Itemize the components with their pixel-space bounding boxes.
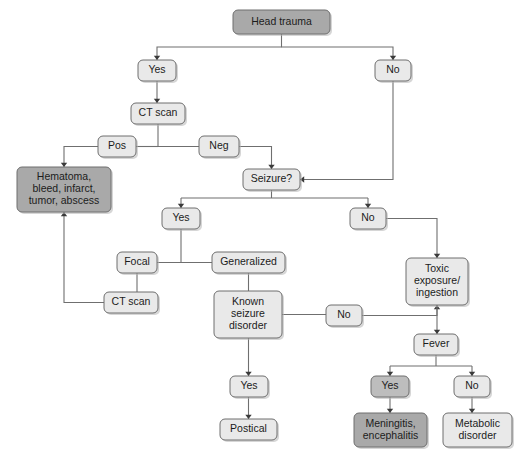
- node-label: Metabolic: [455, 417, 500, 429]
- flowchart-canvas: Head traumaYesNoCT scanPosNegHematoma,bl…: [0, 0, 530, 472]
- node-label: Seizure?: [251, 172, 293, 184]
- node-label: Pos: [108, 139, 126, 151]
- node-label: Generalized: [220, 255, 277, 267]
- node-label: exposure/: [414, 274, 460, 286]
- node-label: No: [361, 211, 375, 223]
- node-label: No: [465, 379, 479, 391]
- flow-node-toxic: Toxicexposure/ingestion: [406, 258, 470, 307]
- flow-node-yes_1: Yes: [138, 60, 178, 83]
- node-label: Yes: [381, 379, 398, 391]
- flow-node-known_seizure: Knownseizuredisorder: [214, 291, 284, 340]
- node-label: encephalitis: [363, 429, 418, 441]
- node-label: seizure: [231, 307, 265, 319]
- edge-layer: [61, 34, 475, 419]
- flow-node-fever: Fever: [414, 334, 460, 357]
- node-label: No: [337, 308, 351, 320]
- node-label: Yes: [240, 379, 257, 391]
- flow-node-no_1: No: [375, 60, 413, 83]
- node-label: Neg: [209, 139, 228, 151]
- flow-node-no_2: No: [350, 208, 388, 231]
- node-label: Hematoma,: [37, 170, 91, 182]
- node-label: Head trauma: [251, 15, 312, 27]
- node-label: CT scan: [139, 106, 178, 118]
- node-layer: Head traumaYesNoCT scanPosNegHematoma,bl…: [17, 10, 514, 449]
- node-label: bleed, infarct,: [32, 182, 95, 194]
- node-label: disorder: [459, 429, 497, 441]
- flow-node-yes_4: Yes: [230, 376, 270, 399]
- node-label: Meningitis,: [365, 417, 415, 429]
- node-label: Fever: [423, 337, 450, 349]
- flow-node-ct_scan_1: CT scan: [131, 103, 187, 126]
- node-label: Yes: [148, 63, 165, 75]
- node-label: ingestion: [416, 286, 458, 298]
- node-label: Toxic: [425, 262, 449, 274]
- flow-node-pos: Pos: [98, 136, 138, 159]
- flow-node-head_trauma: Head trauma: [233, 10, 332, 36]
- flow-node-yes_3: Yes: [371, 376, 411, 399]
- flow-node-generalized: Generalized: [212, 252, 287, 275]
- node-label: tumor, abscess: [29, 194, 100, 206]
- flow-node-no_3: No: [326, 305, 364, 328]
- node-label: disorder: [229, 319, 267, 331]
- node-label: Focal: [124, 255, 150, 267]
- flow-node-hematoma: Hematoma,bleed, infarct,tumor, abscess: [17, 167, 113, 214]
- flow-node-seizure_q: Seizure?: [243, 169, 302, 192]
- node-label: Known: [232, 295, 264, 307]
- node-label: No: [386, 63, 400, 75]
- node-label: Yes: [172, 211, 189, 223]
- flow-node-meningitis: Meningitis,encephalitis: [354, 413, 429, 449]
- flow-node-metabolic: Metabolicdisorder: [443, 413, 514, 449]
- flow-node-neg: Neg: [199, 136, 241, 159]
- flow-node-yes_2: Yes: [162, 208, 202, 231]
- node-label: CT scan: [112, 295, 151, 307]
- flow-node-ct_scan_2: CT scan: [104, 292, 160, 315]
- flowchart-svg: Head traumaYesNoCT scanPosNegHematoma,bl…: [0, 0, 530, 472]
- flow-node-focal: Focal: [117, 252, 159, 275]
- flow-node-no_4: No: [454, 376, 492, 399]
- flow-node-postical: Postical: [220, 419, 279, 442]
- node-label: Postical: [230, 422, 267, 434]
